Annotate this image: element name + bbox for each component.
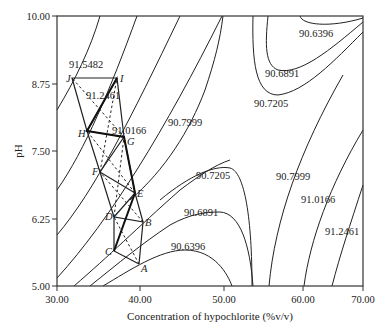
x-tick-label: 70.00 [351, 294, 375, 305]
point-label-C: C [105, 246, 113, 257]
axis-ticks [52, 16, 363, 291]
point-label-D: D [104, 211, 113, 222]
contour-label: 91.5482 [69, 59, 103, 70]
x-tick-label: 30.00 [45, 294, 69, 305]
contour-label: 91.2461 [86, 90, 120, 101]
x-tick-label: 40.00 [128, 294, 152, 305]
contour-chart: 10.00 8.75 7.50 6.25 5.00 30.00 40.00 50… [0, 0, 387, 334]
point-label-F: F [91, 166, 99, 177]
point-label-I: I [119, 73, 124, 84]
contour-label: 91.0166 [301, 194, 335, 205]
y-tick-label: 7.50 [32, 146, 50, 157]
contour-label: 90.7999 [168, 117, 202, 128]
point-label-G: G [127, 136, 135, 147]
contour-lines [57, 16, 363, 286]
x-axis-title: Concentration of hypochlorite (%v/v) [127, 310, 293, 323]
y-tick-label: 8.75 [32, 79, 50, 90]
x-tick-label: 60.00 [291, 294, 315, 305]
contour-label: 91.0166 [112, 125, 146, 136]
point-label-B: B [145, 217, 152, 228]
y-tick-label: 6.25 [32, 214, 50, 225]
y-tick-label: 5.00 [32, 281, 50, 292]
contour-label: 90.7205 [196, 170, 230, 181]
x-tick-label: 50.00 [212, 294, 236, 305]
point-label-H: H [77, 128, 87, 139]
point-label-J: J [66, 73, 72, 84]
simplex-path [72, 78, 143, 264]
y-axis-title: pH [12, 144, 24, 158]
plot-frame [57, 16, 363, 286]
point-label-E: E [136, 188, 144, 199]
contour-label: 91.2461 [325, 226, 359, 237]
contour-label: 90.6396 [299, 28, 333, 39]
point-label-A: A [140, 263, 148, 274]
y-tick-label: 10.00 [26, 11, 50, 22]
contour-label: 90.7205 [254, 98, 288, 109]
contour-label: 90.7999 [276, 171, 310, 182]
contour-label: 90.6891 [184, 207, 218, 218]
contour-label: 90.6396 [171, 241, 205, 252]
contour-label: 90.6891 [265, 68, 299, 79]
